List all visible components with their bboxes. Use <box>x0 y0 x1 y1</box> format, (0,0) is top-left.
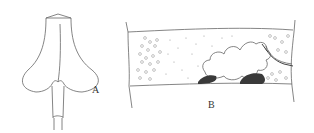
panel-b-deposits <box>198 73 265 84</box>
panel-b-dots <box>165 35 232 78</box>
panel-b-label: B <box>208 99 215 110</box>
panel-a-drawing <box>22 14 98 130</box>
figure-drawing <box>0 0 314 133</box>
panel-a-label: A <box>92 84 99 95</box>
panel-b-stipple <box>137 35 290 82</box>
